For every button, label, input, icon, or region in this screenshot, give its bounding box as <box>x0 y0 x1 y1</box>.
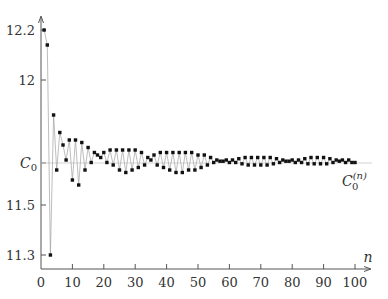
data-point <box>209 156 212 159</box>
data-point <box>168 168 171 171</box>
data-point <box>353 161 356 164</box>
data-point <box>83 168 86 171</box>
data-point <box>297 158 300 161</box>
data-point <box>325 162 328 165</box>
data-point <box>187 168 190 171</box>
x-tick-label: 30 <box>127 275 144 290</box>
data-point <box>243 156 246 159</box>
data-point <box>319 162 322 165</box>
data-point <box>74 138 77 141</box>
data-point <box>262 156 265 159</box>
data-point <box>105 161 108 164</box>
data-point <box>338 160 341 163</box>
data-point <box>231 158 234 161</box>
data-point <box>178 151 181 154</box>
data-point <box>287 160 290 163</box>
x-tick-label: 0 <box>37 275 45 290</box>
data-point <box>42 28 45 31</box>
data-point <box>322 156 325 159</box>
data-point <box>313 162 316 165</box>
x-tick-label: 40 <box>158 275 175 290</box>
data-point <box>152 153 155 156</box>
x-axis-label: n <box>363 249 372 265</box>
data-point <box>140 151 143 154</box>
series-c0-n <box>42 28 356 256</box>
data-point <box>130 168 133 171</box>
data-point <box>228 161 231 164</box>
data-point <box>68 138 71 141</box>
x-tick-label: 70 <box>253 275 270 290</box>
data-point <box>80 141 83 144</box>
data-point <box>284 160 287 163</box>
data-point <box>259 163 262 166</box>
data-point <box>265 163 268 166</box>
data-point <box>291 158 294 161</box>
data-point <box>86 146 89 149</box>
convergence-chart: 010203040506070809010011.311.5C01212.2nC… <box>0 0 388 299</box>
data-point <box>134 148 137 151</box>
data-point <box>206 163 209 166</box>
data-point <box>347 158 350 161</box>
x-tick-label: 80 <box>284 275 301 290</box>
data-point <box>272 162 275 165</box>
data-point <box>253 163 256 166</box>
data-point <box>61 143 64 146</box>
y-tick-label-c0: C0 <box>20 155 37 173</box>
data-point <box>303 157 306 160</box>
data-point <box>174 171 177 174</box>
data-point <box>181 171 184 174</box>
data-point <box>215 158 218 161</box>
data-point <box>221 160 224 163</box>
data-point <box>124 171 127 174</box>
data-point <box>300 161 303 164</box>
data-point <box>46 43 49 46</box>
data-point <box>159 151 162 154</box>
data-point <box>247 163 250 166</box>
data-point <box>115 148 118 151</box>
data-point <box>64 158 67 161</box>
data-point <box>218 160 221 163</box>
data-point <box>344 161 347 164</box>
data-point <box>99 156 102 159</box>
data-point <box>199 166 202 169</box>
data-point <box>328 157 331 160</box>
data-point <box>306 162 309 165</box>
data-point <box>240 162 243 165</box>
data-point <box>234 161 237 164</box>
data-point <box>71 178 74 181</box>
data-point <box>350 161 353 164</box>
data-point <box>52 113 55 116</box>
x-tick-label: 100 <box>343 275 368 290</box>
data-point <box>278 161 281 164</box>
series-line <box>44 30 355 255</box>
y-tick-label: 12 <box>18 73 35 88</box>
data-point <box>96 153 99 156</box>
x-tick-label: 50 <box>190 275 207 290</box>
data-point <box>118 168 121 171</box>
y-tick-label: 11.5 <box>6 198 35 213</box>
data-point <box>212 161 215 164</box>
x-tick-label: 20 <box>96 275 113 290</box>
x-tick-label: 90 <box>315 275 332 290</box>
x-tick-label: 60 <box>221 275 238 290</box>
data-point <box>49 253 52 256</box>
data-point <box>137 166 140 169</box>
data-point <box>184 151 187 154</box>
data-point <box>58 131 61 134</box>
data-point <box>121 148 124 151</box>
axes <box>39 16 372 272</box>
data-point <box>341 158 344 161</box>
data-point <box>127 148 130 151</box>
data-point <box>90 161 93 164</box>
data-point <box>237 157 240 160</box>
data-point <box>165 151 168 154</box>
data-point <box>190 151 193 154</box>
data-point <box>335 158 338 161</box>
data-point <box>55 168 58 171</box>
x-tick-label: 10 <box>64 275 81 290</box>
data-point <box>256 156 259 159</box>
data-point <box>162 166 165 169</box>
data-point <box>269 156 272 159</box>
data-point <box>156 163 159 166</box>
data-point <box>108 148 111 151</box>
